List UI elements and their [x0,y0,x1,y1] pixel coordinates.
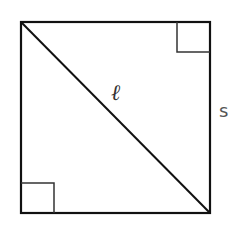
square-diagram: ℓ s [0,0,239,231]
right-angle-marker-top-right [177,22,210,52]
side-label: s [219,100,228,121]
diagonal-label: ℓ [111,80,121,105]
right-angle-marker-bottom-left [21,183,54,213]
diagonal-line [21,22,210,213]
